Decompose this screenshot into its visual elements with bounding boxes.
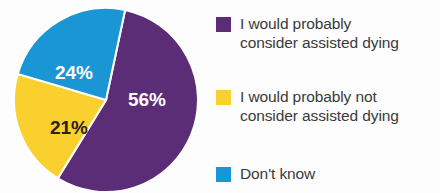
chart-legend: I would probably consider assisted dying…	[216, 0, 440, 193]
legend-swatch-blue-icon	[216, 167, 231, 182]
legend-label-not-consider: I would probably not consider assisted d…	[240, 87, 399, 125]
legend-item-consider[interactable]: I would probably consider assisted dying	[216, 14, 399, 52]
pie-slice-label-consider: 56%	[124, 89, 170, 111]
pie-slice-label-not-consider: 21%	[47, 117, 91, 139]
legend-swatch-purple-icon	[216, 17, 231, 32]
legend-item-dont-know[interactable]: Don't know	[216, 164, 315, 183]
pie-chart-graphic: 56% 24% 21%	[0, 0, 212, 193]
legend-label-dont-know: Don't know	[240, 164, 315, 183]
legend-label-consider: I would probably consider assisted dying	[240, 14, 399, 52]
pie-slices	[14, 8, 198, 192]
pie-chart-figure: 56% 24% 21% I would probably consider as…	[0, 0, 440, 193]
pie-slice-label-dont-know: 24%	[52, 62, 96, 84]
pie-svg	[0, 0, 212, 193]
legend-item-not-consider[interactable]: I would probably not consider assisted d…	[216, 87, 399, 125]
legend-swatch-yellow-icon	[216, 90, 231, 105]
